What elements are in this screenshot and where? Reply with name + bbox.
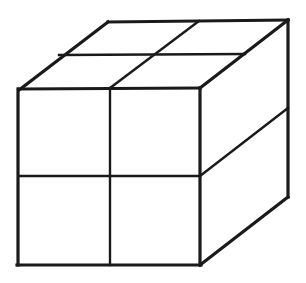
figure-root: Cube subdivided into eight smaller cubes [0,0,306,283]
cube-illustration [0,0,306,283]
top-face-back-edge [108,20,288,22]
front-face-top-edge [19,88,200,89]
top-face-lateral-divider [59,54,245,55]
